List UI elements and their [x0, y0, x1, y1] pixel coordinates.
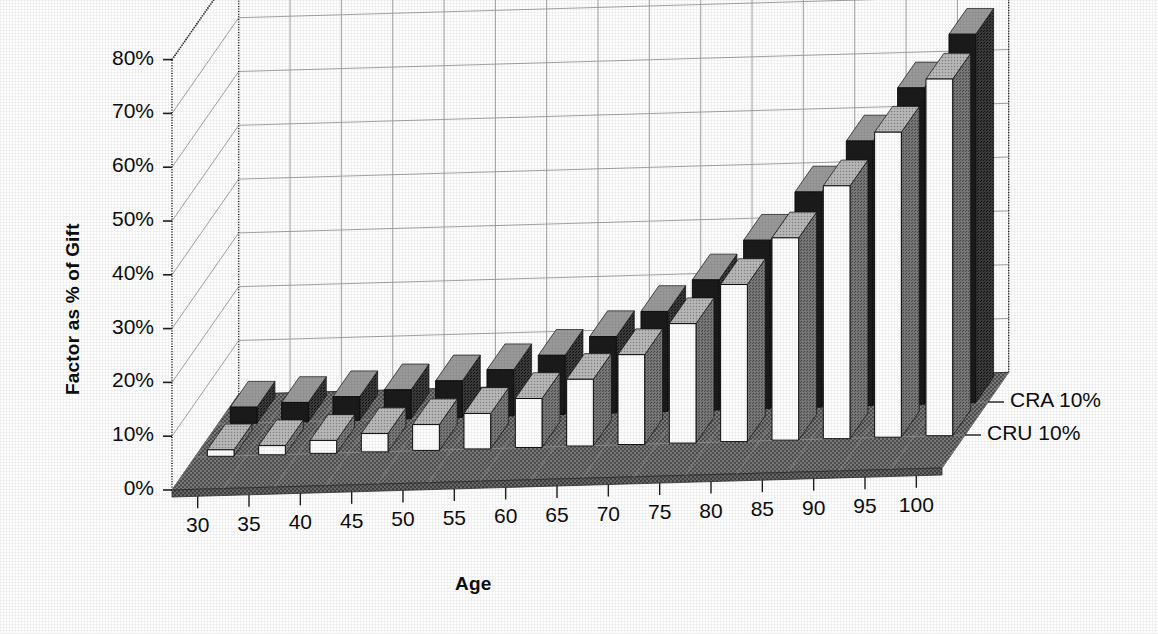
x-axis-tick-label: 90 — [791, 496, 837, 520]
series-depth-label-cru: CRU 10% — [987, 421, 1080, 445]
series-depth-label-cra: CRA 10% — [1010, 388, 1101, 412]
x-axis-tick-label: 40 — [277, 510, 323, 534]
x-axis-tick-label: 95 — [842, 494, 888, 518]
y-axis-title: Factor as % of Gift — [62, 223, 84, 395]
y-axis-tick-label: 80% — [76, 46, 154, 70]
x-axis-tick-label: 70 — [585, 502, 631, 526]
chart-container: 0%10%20%30%40%50%60%70%80% 3035404550556… — [0, 0, 1158, 634]
x-axis-tick-label: 35 — [226, 512, 272, 536]
x-axis-tick-label: 85 — [739, 497, 785, 521]
y-axis-tick-label: 60% — [76, 153, 154, 177]
three-d-bar-chart — [0, 0, 1158, 634]
y-axis-tick-label: 50% — [76, 207, 154, 231]
x-axis-tick-label: 30 — [175, 513, 221, 537]
x-axis-tick-label: 65 — [534, 503, 580, 527]
x-axis-tick-label: 55 — [431, 506, 477, 530]
x-axis-tick-label: 50 — [380, 507, 426, 531]
y-axis-tick-label: 30% — [76, 315, 154, 339]
x-axis-tick-label: 45 — [329, 509, 375, 533]
x-axis-tick-label: 75 — [637, 500, 683, 524]
x-axis-title: Age — [455, 573, 492, 595]
x-axis-tick-label: 100 — [893, 493, 939, 517]
x-axis-tick-label: 60 — [483, 504, 529, 528]
x-axis-tick-label: 80 — [688, 499, 734, 523]
y-axis-tick-label: 70% — [76, 99, 154, 123]
y-axis-tick-label: 40% — [76, 261, 154, 285]
y-axis-tick-label: 10% — [76, 422, 154, 446]
y-axis-tick-label: 0% — [76, 476, 154, 500]
y-axis-tick-label: 20% — [76, 368, 154, 392]
